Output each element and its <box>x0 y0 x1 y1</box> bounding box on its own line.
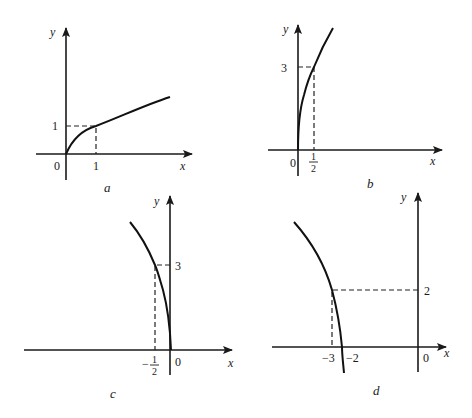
x-axis-label: x <box>443 346 450 360</box>
graph-c: y 3 − 1 2 0 x c <box>24 194 234 401</box>
function-graphs-figure: y 1 0 1 x a y 3 0 1 2 x b y 3 − 1 2 0 x … <box>0 0 472 418</box>
graph-b: y 3 0 1 2 x b <box>268 22 442 191</box>
graph-a: y 1 0 1 x a <box>36 25 192 195</box>
origin-label: 0 <box>423 351 429 365</box>
tick-x-label-minus3: −3 <box>322 351 335 365</box>
tick-y-label: 3 <box>175 259 181 273</box>
caption-d: d <box>373 383 380 398</box>
tick-y-label: 2 <box>424 284 430 298</box>
origin-label: 0 <box>290 156 296 170</box>
tick-x-numerator: 1 <box>152 354 157 365</box>
tick-y-label: 3 <box>281 61 287 75</box>
guide-lines <box>332 290 418 347</box>
tick-x-numerator: 1 <box>311 151 316 162</box>
curve-d <box>294 222 344 373</box>
guide-lines <box>66 126 96 154</box>
y-axis-label: y <box>400 190 407 204</box>
caption-b: b <box>367 176 374 191</box>
curve-a <box>66 97 170 154</box>
graph-d: y 2 −3 −2 0 x d <box>272 190 450 398</box>
tick-x-sign: − <box>142 357 149 371</box>
tick-x-label-minus2: −2 <box>346 351 359 365</box>
tick-x-denominator: 2 <box>311 163 316 174</box>
y-axis-label: y <box>153 194 160 208</box>
x-axis-label: x <box>429 154 436 168</box>
caption-c: c <box>110 386 116 401</box>
caption-a: a <box>104 180 111 195</box>
tick-x-denominator: 2 <box>152 366 157 377</box>
x-axis-label: x <box>179 159 186 173</box>
y-axis-label: y <box>282 22 289 36</box>
origin-label: 0 <box>175 355 181 369</box>
y-axis-label: y <box>49 25 56 39</box>
curve-b <box>298 28 333 150</box>
origin-label: 0 <box>54 159 60 173</box>
curve-c <box>130 222 171 350</box>
tick-x-label: 1 <box>93 159 99 173</box>
x-axis-label: x <box>227 356 234 370</box>
tick-y-label: 1 <box>52 119 58 133</box>
